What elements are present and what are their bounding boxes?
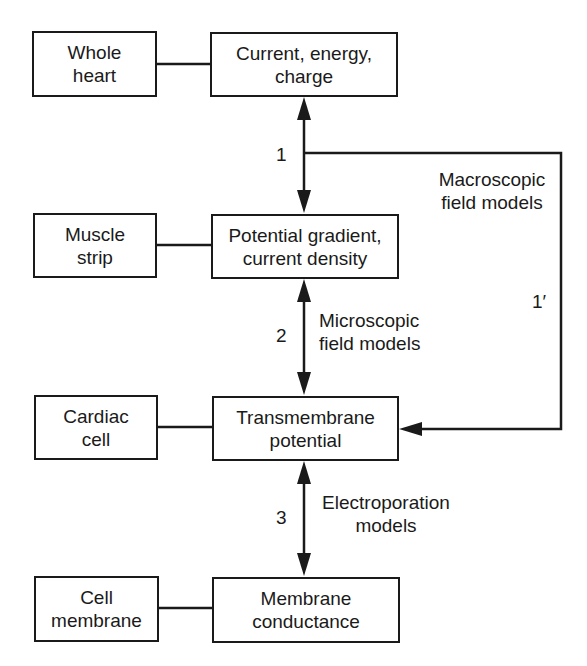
- link-number-3: 3: [276, 506, 287, 529]
- link-number-1: 1: [276, 143, 287, 166]
- label-electroporation-models: Electroporation models: [316, 491, 456, 537]
- arrow-up-icon: [297, 279, 311, 302]
- arrow-down-icon: [297, 190, 311, 213]
- box-label: Muscle strip: [65, 223, 125, 269]
- arrow-up-icon: [297, 97, 311, 120]
- box-label: Cardiac cell: [63, 405, 128, 451]
- box-label: Whole heart: [68, 41, 122, 87]
- box-cell-membrane: Cell membrane: [34, 576, 159, 642]
- label-macroscopic-field-models: Macroscopic field models: [427, 168, 557, 214]
- box-label: Cell membrane: [51, 586, 142, 632]
- arrow-down-icon: [297, 553, 311, 576]
- box-transmembrane-potential: Transmembrane potential: [212, 396, 399, 461]
- box-membrane-conductance: Membrane conductance: [212, 577, 400, 643]
- box-label: Potential gradient, current density: [228, 224, 381, 270]
- arrow-down-icon: [297, 372, 311, 395]
- box-label: Transmembrane potential: [236, 406, 375, 452]
- link-number-2: 2: [276, 324, 287, 347]
- box-whole-heart: Whole heart: [32, 31, 157, 97]
- diagram-canvas: Whole heart Muscle strip Cardiac cell Ce…: [0, 0, 587, 666]
- box-current-energy-charge: Current, energy, charge: [210, 32, 398, 97]
- box-label: Current, energy, charge: [236, 42, 372, 88]
- link-number-1-prime: 1′: [532, 290, 546, 313]
- arrow-up-icon: [297, 461, 311, 484]
- box-potential-gradient: Potential gradient, current density: [211, 214, 399, 279]
- box-cardiac-cell: Cardiac cell: [34, 395, 158, 460]
- arrow-left-icon: [399, 422, 422, 436]
- label-microscopic-field-models: Microscopic field models: [319, 309, 420, 355]
- connector-lines: [0, 0, 587, 666]
- box-muscle-strip: Muscle strip: [33, 213, 157, 278]
- box-label: Membrane conductance: [252, 587, 360, 633]
